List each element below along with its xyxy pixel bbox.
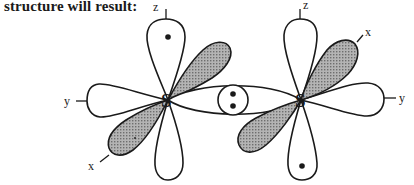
right-x-label: x <box>365 25 371 39</box>
right-lone-electron <box>299 163 305 169</box>
right-x-axis-tick <box>357 35 363 42</box>
left-lone-electron <box>165 34 171 40</box>
bond-electron-1 <box>230 91 236 97</box>
left-x-axis-tick <box>100 155 109 162</box>
orbital-diagram: z y x z y <box>0 0 414 185</box>
right-y-label: y <box>399 91 405 105</box>
speck <box>134 137 136 139</box>
right-atom-symbol: S <box>295 90 306 111</box>
right-z-label: z <box>303 0 308 12</box>
left-y-label: y <box>64 94 70 108</box>
left-atom-symbol: S <box>161 90 172 111</box>
left-z-label: z <box>153 0 158 14</box>
bond-pair-circle <box>218 85 248 115</box>
bond-electron-2 <box>230 103 236 109</box>
left-x-label: x <box>88 159 94 173</box>
